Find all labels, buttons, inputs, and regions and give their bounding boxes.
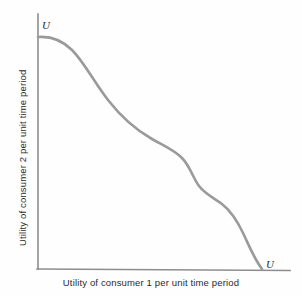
curve-endpoint-label-top: U <box>42 20 50 31</box>
plot-area <box>0 0 302 296</box>
x-axis-line <box>37 269 290 271</box>
curve-endpoint-label-bottom: U <box>266 259 274 270</box>
x-axis-title: Utility of consumer 1 per unit time peri… <box>0 278 302 288</box>
utility-possibility-frontier-figure: U U Utility of consumer 1 per unit time … <box>0 0 302 296</box>
y-axis-title: Utility of consumer 2 per unit time peri… <box>18 70 28 246</box>
utility-frontier-curve <box>38 37 262 269</box>
